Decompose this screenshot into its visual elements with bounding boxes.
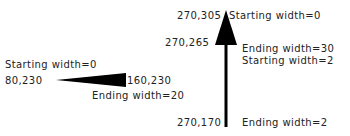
vertical-mid-start-width-label: Starting width=2 [242,55,334,66]
vertical-shaft-shape [225,44,228,127]
vertical-top-width-label: Starting width=0 [229,10,321,21]
vertical-mid-end-width-label: Ending width=30 [242,43,334,54]
vertical-bottom-width-label: Ending width=2 [242,117,328,128]
vertical-top-coord-label: 270,305 [177,10,221,21]
horizontal-end-coord-label: 160,230 [127,75,171,86]
vertical-bottom-coord-label: 270,170 [177,117,221,128]
horizontal-end-width-label: Ending width=20 [92,90,184,101]
vertical-mid-coord-label: 270,265 [165,37,209,48]
horizontal-start-width-label: Starting width=0 [5,59,97,70]
horizontal-wedge-shape [56,73,126,87]
horizontal-start-coord-label: 80,230 [5,75,42,86]
